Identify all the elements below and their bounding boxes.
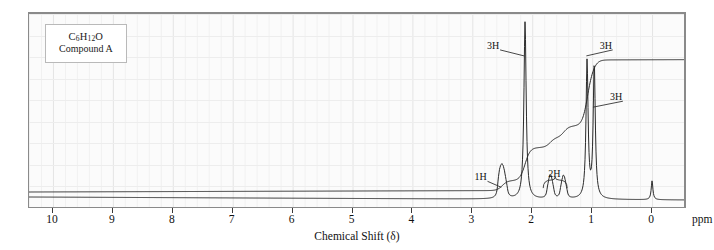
integral-label-2h-2: 2H [548, 168, 560, 179]
spectrum-trace-layer [29, 14, 685, 208]
axis-tick-label-2: 2 [528, 213, 534, 225]
axis-tick-label-6: 6 [289, 213, 295, 225]
axis-tick-label-1: 1 [588, 213, 594, 225]
axis-tick-label-7: 7 [229, 213, 235, 225]
axis-tick-label-3: 3 [468, 213, 474, 225]
integral-label-3h-1: 3H [487, 40, 499, 51]
sample-label-box: C6H12O Compound A [45, 24, 127, 63]
axis-tick-label-0: 0 [648, 213, 654, 225]
axis-tick-label-10: 10 [46, 213, 58, 225]
axis-tick-label-4: 4 [409, 213, 415, 225]
axis-tick-label-5: 5 [349, 213, 355, 225]
integral-label-3h-4: 3H [610, 91, 622, 102]
molecular-formula: C6H12O [59, 30, 113, 43]
axis-tick-label-8: 8 [169, 213, 175, 225]
nmr-spectrum-figure: C6H12O Compound A 1H3H2H3H3H 10987654321… [0, 0, 714, 250]
integral-label-1h-0: 1H [475, 171, 487, 182]
compound-name: Compound A [59, 43, 113, 56]
axis-tick-label-9: 9 [109, 213, 115, 225]
x-axis: 109876543210 [28, 208, 686, 228]
integral-label-3h-3: 3H [600, 40, 612, 51]
x-axis-title: Chemical Shift (δ) [0, 230, 714, 242]
axis-unit-label: ppm [692, 213, 712, 225]
spectrum-plot-area [28, 12, 686, 208]
